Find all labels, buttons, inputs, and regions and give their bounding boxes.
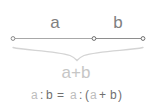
formula-part-a2: a	[70, 88, 77, 102]
segment-a-label: a	[50, 13, 60, 32]
formula-part-colon2: :	[79, 88, 82, 102]
formula-part-equals: =	[57, 88, 64, 102]
formula-part-a1: a	[31, 88, 38, 102]
formula-part-plus: +	[99, 88, 106, 102]
formula-part-b2: b	[110, 88, 117, 102]
formula-part-paren-close: )	[118, 88, 122, 102]
segment-b-label: b	[113, 13, 122, 32]
middle-division-node	[92, 37, 96, 41]
formula-expression: a : b = a : ( a + b )	[31, 88, 122, 102]
right-endpoint-node	[141, 37, 145, 41]
formula-part-colon1: :	[40, 88, 43, 102]
formula-part-a3: a	[90, 88, 97, 102]
total-length-brace	[13, 48, 143, 61]
sum-label: a+b	[62, 63, 91, 82]
left-endpoint-node	[11, 37, 15, 41]
formula-part-paren-open: (	[85, 88, 89, 102]
diagram-canvas: a b a+b a : b = a : ( a + b )	[0, 0, 151, 107]
formula-part-b1: b	[46, 88, 53, 102]
ratio-diagram: a b a+b a : b = a : ( a + b )	[0, 0, 151, 107]
